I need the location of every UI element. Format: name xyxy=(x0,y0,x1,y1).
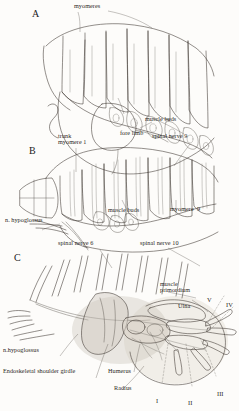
digit-label-iii: III xyxy=(217,390,223,397)
panel-letter-a: A xyxy=(32,8,40,19)
label-radius: Radius xyxy=(114,385,132,392)
digit-label-i: I xyxy=(156,397,158,404)
label-muscle-buds-a: muscle buds xyxy=(145,116,176,123)
label-myomere-9: myomere 9 xyxy=(170,206,200,213)
label-humerus: Humerus xyxy=(108,368,131,375)
digit-label-iv: IV xyxy=(226,301,233,308)
label-spinal-nerve-6: spinal nerve 6 xyxy=(58,240,93,247)
label-primordium: primordium xyxy=(160,287,190,294)
panel-letter-b: B xyxy=(29,145,36,156)
panel-b-drawing xyxy=(20,148,218,253)
label-muscle-buds-b: muscle buds xyxy=(108,207,139,214)
figure-plate: A myomeres muscle buds fore limb B trunk… xyxy=(0,0,239,411)
label-myomeres: myomeres xyxy=(74,3,100,10)
label-fore-limb: fore limb xyxy=(120,130,143,137)
digit-label-v: V xyxy=(207,296,212,303)
label-n-hypoglossus-b: n. hypoglossus xyxy=(5,217,43,224)
panel-a-drawing xyxy=(43,24,214,174)
label-ulna: Ulna xyxy=(178,303,190,310)
label-spinal-nerve-9: spinal nerve 9 xyxy=(152,133,187,140)
digit-label-ii: II xyxy=(188,399,192,406)
label-myomere-1: myomere 1 xyxy=(58,139,86,146)
panel-letter-c: C xyxy=(14,252,21,263)
label-spinal-nerve-10: spinal nerve 10 xyxy=(140,240,179,247)
label-n-hypoglossus-c: n.hypoglossus xyxy=(3,347,39,354)
label-shoulder-girdle: Endoskeletal shoulder girdle xyxy=(3,368,75,375)
